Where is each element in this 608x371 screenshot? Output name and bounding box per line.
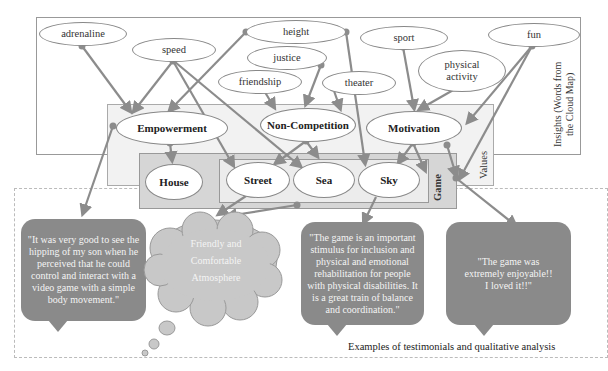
value-empowerment: Empowerment (116, 111, 228, 145)
insight-theater: theater (322, 71, 396, 95)
insight-sport: sport (360, 26, 448, 50)
game-street: Street (226, 162, 290, 198)
insight-adrenaline: adrenaline (39, 22, 127, 46)
testimonial-bubble-1: "It was very good to see the hipping of … (21, 219, 146, 321)
cloud-text: Friendly and Comfortable Atmosphere (176, 235, 256, 286)
insight-physical-activity: physical activity (418, 50, 506, 92)
value-motivation: Motivation (366, 111, 462, 145)
game-sky: Sky (358, 162, 420, 198)
cloud-line-2: Comfortable (176, 252, 256, 269)
testimonials-caption: Examples of testimonials and qualitative… (348, 341, 555, 352)
bubble-tail (48, 320, 68, 332)
insight-justice: justice (247, 46, 327, 70)
cloud-line-3: Atmosphere (176, 269, 256, 286)
insight-speed: speed (132, 38, 216, 62)
bubble-tail (327, 324, 347, 336)
cloud-line-1: Friendly and (176, 235, 256, 252)
testimonial-bubble-2: "The game is an important stimulus for i… (301, 222, 424, 325)
value-non-competition: Non-Competition (260, 108, 356, 142)
insight-friendship: friendship (218, 70, 302, 94)
game-house: House (145, 164, 203, 200)
testimonial-bubble-3: "The game was extremely enjoyable!! I lo… (446, 222, 571, 325)
insight-height: height (246, 20, 346, 44)
game-sea: Sea (293, 162, 355, 198)
insight-fun: fun (488, 23, 580, 47)
bubble-tail (474, 324, 494, 336)
